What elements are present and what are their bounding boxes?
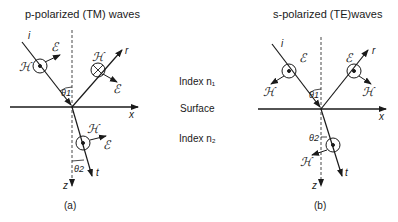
e-label-incident-a: ℰ bbox=[51, 40, 58, 54]
x-axis-label-b: x bbox=[379, 111, 384, 122]
z-axis-label-a: z bbox=[63, 180, 68, 191]
panel-b-geometry bbox=[258, 37, 386, 186]
reflected-label-a: r bbox=[125, 45, 128, 56]
h-label-reflected-a: ℋ bbox=[92, 50, 104, 64]
h-label-incident-a: ℋ bbox=[19, 60, 31, 74]
z-axis-label-b: z bbox=[312, 180, 317, 191]
x-axis-label-a: x bbox=[129, 109, 134, 120]
transmitted-label-b: t bbox=[345, 167, 348, 178]
reflected-label-b: r bbox=[372, 45, 375, 56]
e-label-reflected-b: ℰ bbox=[345, 51, 352, 65]
e-label-incident-b: ℰ bbox=[299, 51, 306, 65]
e-label-transmitted-a: ℰ bbox=[103, 138, 110, 152]
theta2-arc-a bbox=[72, 160, 84, 161]
index-n1-label: Index n₁ bbox=[179, 76, 215, 87]
h-label-reflected-b: ℋ bbox=[362, 85, 374, 99]
panel-a-caption: (a) bbox=[64, 200, 76, 211]
e-arrow-incident-a bbox=[45, 55, 60, 62]
surface-label: Surface bbox=[180, 103, 214, 114]
theta1-label-b: θ1 bbox=[309, 90, 319, 100]
incident-label-b: i bbox=[281, 38, 283, 49]
h-arrow-transmitted-b bbox=[312, 150, 327, 155]
h-label-transmitted-a: ℋ bbox=[87, 122, 99, 136]
transmitted-label-a: t bbox=[96, 167, 99, 178]
index-n2-label: Index n₂ bbox=[179, 133, 216, 144]
h-label-transmitted-b: ℋ bbox=[300, 155, 312, 169]
transmitted-ray-b bbox=[321, 109, 342, 176]
incident-label-a: i bbox=[28, 30, 30, 41]
theta2-label-a: θ2 bbox=[74, 164, 84, 174]
theta1-label-a: θ1 bbox=[61, 88, 71, 98]
h-arrow-incident-b bbox=[271, 76, 284, 84]
e-arrow-reflected-a bbox=[103, 74, 117, 82]
e-label-reflected-a: ℰ bbox=[113, 82, 120, 96]
h-arrow-reflected-b bbox=[359, 76, 371, 84]
h-label-incident-b: ℋ bbox=[263, 85, 275, 99]
panel-a-title: p-polarized (TM) waves bbox=[25, 8, 140, 20]
panel-b-caption: (b) bbox=[314, 200, 326, 211]
panel-b-title: s-polarized (TE)waves bbox=[273, 8, 382, 20]
panel-a-geometry bbox=[10, 30, 138, 186]
theta2-label-b: θ2 bbox=[309, 133, 319, 143]
